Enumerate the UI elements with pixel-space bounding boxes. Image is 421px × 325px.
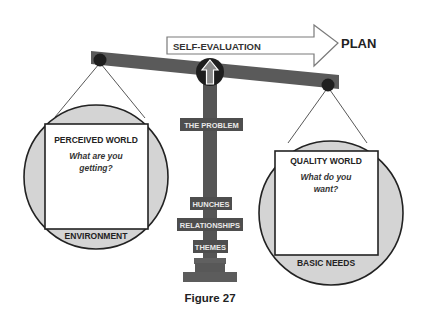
svg-text:THE PROBLEM: THE PROBLEM <box>184 121 239 130</box>
svg-text:RELATIONSHIPS: RELATIONSHIPS <box>180 221 240 230</box>
pillar-label-themes: THEMES <box>193 240 228 253</box>
right-pan: QUALITY WORLD What do you want? BASIC NE… <box>259 141 403 285</box>
quality-world-title: QUALITY WORLD <box>290 156 362 166</box>
fulcrum <box>196 58 224 86</box>
quality-world-question-1: What do you <box>301 172 353 182</box>
right-pivot-dot <box>322 79 335 92</box>
self-evaluation-arrow: SELF-EVALUATION <box>167 25 338 66</box>
perceived-world-question-1: What are you <box>69 151 123 161</box>
plan-label: PLAN <box>341 36 376 51</box>
perceived-world-question-2: getting? <box>78 163 113 173</box>
pillar <box>203 78 217 262</box>
pillar-label-the-problem: THE PROBLEM <box>180 118 243 131</box>
scale-base <box>183 258 237 282</box>
pillar-label-hunches: HUNCHES <box>190 197 232 210</box>
pillar-label-relationships: RELATIONSHIPS <box>177 218 243 231</box>
environment-label: ENVIRONMENT <box>65 231 129 241</box>
figure-caption: Figure 27 <box>184 292 235 304</box>
left-pivot-dot <box>94 54 107 67</box>
svg-text:THEMES: THEMES <box>195 243 226 252</box>
self-evaluation-label: SELF-EVALUATION <box>173 41 261 52</box>
left-pan: PERCEIVED WORLD What are you getting? EN… <box>24 105 168 249</box>
perceived-world-title: PERCEIVED WORLD <box>54 135 138 145</box>
basic-needs-label: BASIC NEEDS <box>297 258 355 268</box>
svg-text:HUNCHES: HUNCHES <box>192 200 229 209</box>
right-strings <box>288 90 367 143</box>
quality-world-question-2: want? <box>314 184 339 194</box>
